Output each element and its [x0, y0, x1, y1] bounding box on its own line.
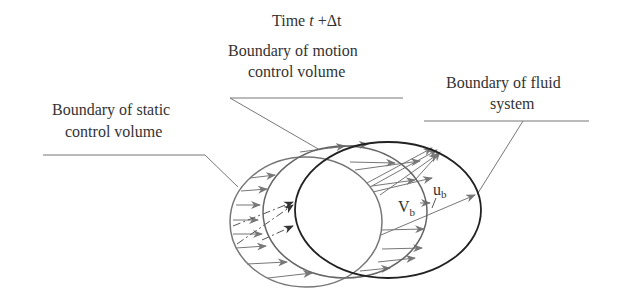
motion-cv-label-line2: control volume — [248, 63, 345, 80]
static-cv-leader — [205, 155, 238, 187]
fluid-system-leader — [478, 121, 523, 193]
v-b-symbol: Vb — [398, 198, 416, 218]
time-title: Time t +Δt — [272, 12, 342, 29]
static-cv-label-line1: Boundary of static — [52, 101, 170, 119]
velocity-arrows-static — [233, 175, 312, 278]
fluid-system-label-line1: Boundary of fluid — [446, 74, 561, 92]
static-cv-label-line2: control volume — [65, 123, 162, 140]
motion-cv-label-line1: Boundary of motion — [228, 42, 358, 60]
u-b-vector — [381, 195, 475, 235]
u-b-tick — [432, 198, 436, 208]
u-b-symbol: ub — [433, 181, 447, 200]
fluid-system-label-line2: system — [490, 95, 535, 113]
motion-cv-leader — [230, 98, 320, 150]
control-volume-diagram: Time t +Δt Boundary of motion control vo… — [0, 0, 628, 304]
